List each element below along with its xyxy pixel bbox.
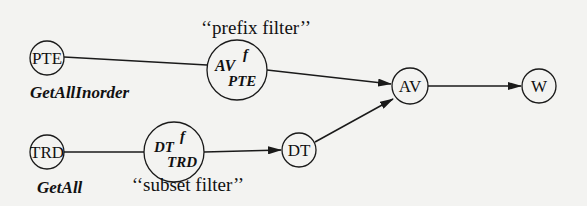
node-dt: DT [282, 133, 316, 167]
caption-getall: GetAll [37, 178, 83, 197]
annotation-subset-filter: ‘‘subset filter’’ [132, 174, 244, 195]
node-trd: TRD [30, 135, 64, 169]
node-dt-label: DT [288, 141, 311, 160]
node-av-label: AV [399, 77, 422, 96]
edge-avfpte-to-av [267, 70, 391, 84]
edge-dt-to-av [315, 99, 393, 142]
node-pte: PTE [30, 41, 64, 75]
diagram-svg: PTE GetAllInorder AV f PTE ‘‘prefix filt… [0, 0, 587, 206]
node-dt-f-trd-sup: f [180, 128, 187, 144]
node-av: AV [392, 68, 428, 104]
edge-dtftrd-to-dt [204, 150, 281, 152]
node-dt-f-trd-sub: TRD [167, 154, 197, 170]
dataflow-diagram: PTE GetAllInorder AV f PTE ‘‘prefix filt… [0, 0, 587, 206]
node-w: W [522, 69, 556, 103]
edge-pte-to-avfpte [64, 57, 207, 65]
node-av-f-pte: AV f PTE [207, 40, 267, 100]
node-av-f-pte-sup: f [243, 46, 250, 62]
node-w-label: W [531, 77, 548, 96]
node-dt-f-trd-base: DT [153, 139, 175, 155]
annotation-prefix-filter: ‘‘prefix filter’’ [201, 17, 311, 38]
node-av-f-pte-base: AV [214, 57, 236, 74]
node-pte-label: PTE [32, 49, 62, 68]
edges [64, 57, 521, 152]
node-dt-f-trd: DT f TRD [144, 122, 204, 182]
caption-getallinorder: GetAllInorder [30, 83, 130, 102]
node-trd-label: TRD [30, 143, 64, 162]
node-av-f-pte-sub: PTE [228, 73, 256, 89]
